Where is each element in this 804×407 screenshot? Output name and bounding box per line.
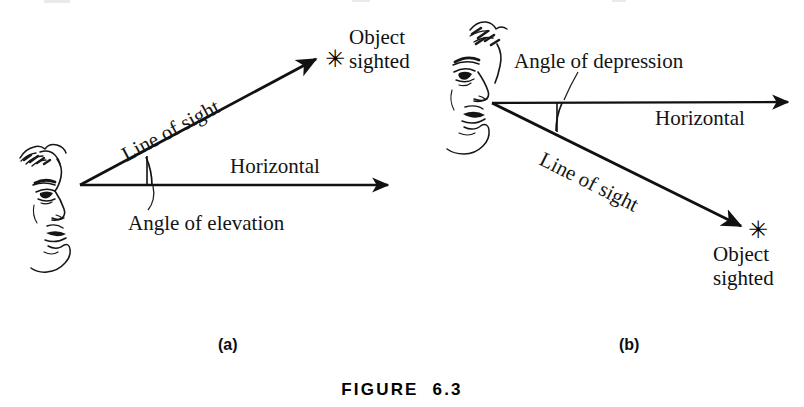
object-sighted-line2: sighted (713, 267, 774, 291)
angle-of-elevation-label: Angle of elevation (128, 212, 284, 235)
horizontal-label-a: Horizontal (230, 155, 320, 178)
figure-caption: FIGURE 6.3 (0, 380, 804, 400)
object-star-icon-b: ✳ (748, 218, 768, 242)
object-sighted-label-b: Object sighted (713, 243, 774, 290)
object-sighted-line2: sighted (349, 50, 410, 74)
angle-label-leader-b (564, 72, 578, 100)
object-star-icon-a: ✳ (325, 47, 345, 71)
object-sighted-line1: Object (349, 26, 410, 50)
panel-label-a: (a) (218, 336, 238, 354)
panel-label-b: (b) (619, 336, 639, 354)
panel-a-group (20, 59, 388, 272)
figure-6-3: Line of sight Horizontal Angle of elevat… (0, 0, 804, 407)
angle-of-depression-label: Angle of depression (514, 50, 683, 73)
object-sighted-label-a: Object sighted (349, 26, 410, 73)
observer-head-a (20, 145, 70, 273)
angle-label-leader-a (148, 186, 154, 210)
horizontal-label-b: Horizontal (655, 107, 745, 130)
observer-head-b (447, 22, 507, 154)
object-sighted-line1: Object (713, 243, 774, 267)
horizontal-ray-b (492, 102, 788, 103)
